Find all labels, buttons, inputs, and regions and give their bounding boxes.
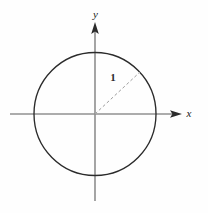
unit-circle-figure: x y 1 [0, 0, 208, 213]
radius-length-label: 1 [110, 71, 116, 83]
radius-dashed-line [95, 72, 140, 114]
unit-circle-svg: x y 1 [0, 0, 208, 213]
origin-point [94, 113, 95, 114]
x-axis-label: x [186, 107, 192, 119]
y-axis-label: y [92, 8, 98, 20]
